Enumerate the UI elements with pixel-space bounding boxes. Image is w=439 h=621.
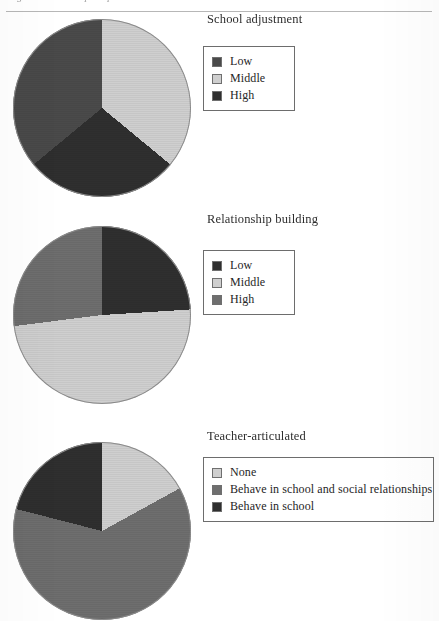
legend-swatch-low	[212, 261, 222, 271]
chart-title-relationship-building: Relationship building	[207, 212, 318, 227]
legend-label-behave-school: Behave in school	[230, 499, 314, 514]
legend-label-low: Low	[230, 258, 252, 273]
chart-relationship-building: Relationship building Low Middle High	[0, 205, 439, 420]
legend-item: High	[212, 87, 285, 104]
legend-label-high: High	[230, 292, 254, 307]
pie-school-adjustment	[13, 19, 191, 197]
chart-title-school-adjustment: School adjustment	[207, 12, 302, 27]
legend-swatch-middle	[212, 74, 222, 84]
legend-label-middle: Middle	[230, 275, 265, 290]
legend-swatch-high	[212, 295, 222, 305]
legend-item: Behave in school and social relationship…	[212, 481, 424, 498]
legend-label-behave-school-social: Behave in school and social relationship…	[230, 482, 432, 497]
legend-relationship-building: Low Middle High	[203, 250, 295, 315]
legend-school-adjustment: Low Middle High	[203, 46, 295, 111]
legend-item: Middle	[212, 274, 285, 291]
legend-item: None	[212, 464, 424, 481]
legend-swatch-none	[212, 468, 222, 478]
chart-school-adjustment: School adjustment Low Middle High	[0, 0, 439, 205]
legend-swatch-high	[212, 91, 222, 101]
legend-teacher-articulated: None Behave in school and social relatio…	[203, 457, 434, 522]
legend-label-none: None	[230, 465, 256, 480]
legend-label-low: Low	[230, 54, 252, 69]
legend-swatch-middle	[212, 278, 222, 288]
legend-swatch-behave-school	[212, 502, 222, 512]
legend-swatch-behave-school-social	[212, 485, 222, 495]
chart-teacher-articulated: Teacher-articulated None Behave in schoo…	[0, 420, 439, 621]
legend-item: Behave in school	[212, 498, 424, 515]
legend-item: Middle	[212, 70, 285, 87]
legend-item: High	[212, 291, 285, 308]
pie-slices-relationship-building	[13, 226, 191, 404]
legend-swatch-low	[212, 57, 222, 67]
legend-item: Low	[212, 257, 285, 274]
legend-label-middle: Middle	[230, 71, 265, 86]
legend-label-high: High	[230, 88, 254, 103]
pie-relationship-building	[13, 226, 191, 404]
legend-item: Low	[212, 53, 285, 70]
figure-page: Figure — Student perceptions School adju…	[0, 0, 439, 621]
chart-title-teacher-articulated: Teacher-articulated	[207, 429, 306, 444]
pie-teacher-articulated	[13, 442, 191, 620]
pie-slices-school-adjustment	[13, 19, 191, 197]
pie-slices-teacher-articulated	[13, 442, 191, 620]
